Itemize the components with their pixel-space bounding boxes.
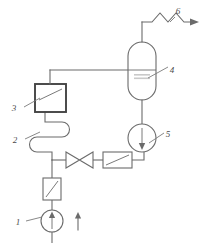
callout-label-6: 6	[176, 6, 181, 16]
callout-label-3: 3	[11, 103, 17, 113]
callout-label-4: 4	[170, 65, 175, 75]
product-outlet-line	[142, 13, 190, 22]
gate-valve	[66, 152, 93, 168]
product-outlet-arrow-icon	[190, 19, 199, 26]
vessel-level-indicator-lower	[134, 78, 150, 80]
callout-label-2: 2	[13, 135, 18, 145]
feed-inlet-arrow-icon	[75, 212, 81, 219]
diagram-canvas: 1 2 3 4 5 6	[0, 0, 204, 243]
flowelement-to-pump5-pipe	[132, 152, 144, 160]
process-flow-diagram: 1 2 3 4 5 6	[0, 0, 204, 243]
callout-label-1: 1	[16, 217, 21, 227]
callout-label-5: 5	[166, 129, 171, 139]
serpentine-coil	[30, 112, 70, 160]
vessel-level-indicator	[134, 74, 150, 76]
separator-vessel	[128, 42, 156, 100]
callout-leader-1	[26, 217, 42, 221]
